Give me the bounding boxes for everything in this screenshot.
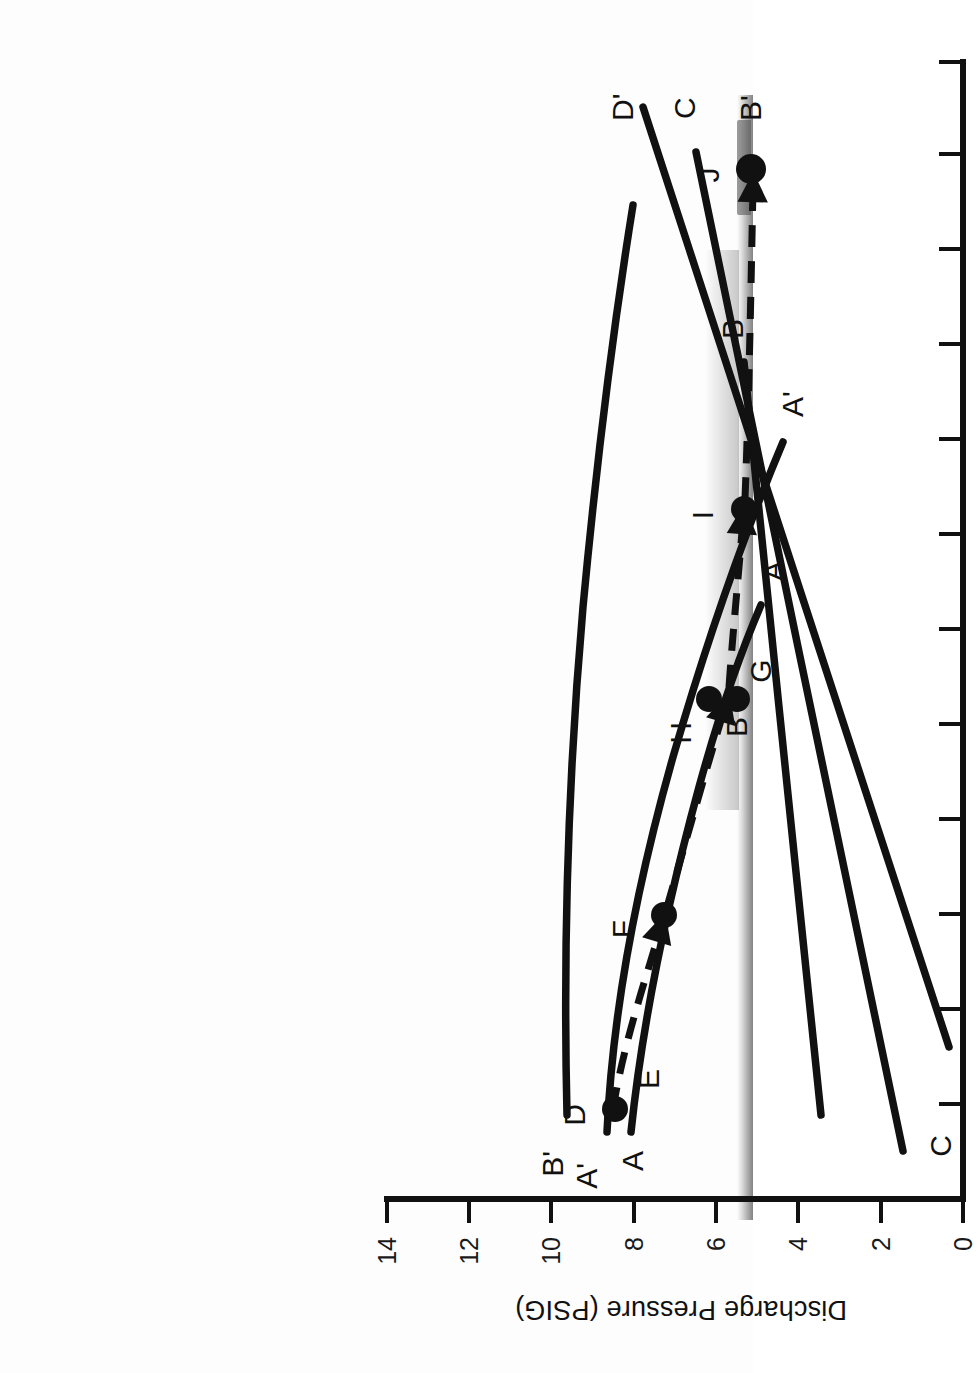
label-curve-B-prime-left: B' bbox=[536, 1151, 569, 1177]
label-point-I: I bbox=[686, 510, 719, 518]
y-tick-4: 4 bbox=[784, 1236, 812, 1250]
y-tick-6: 6 bbox=[702, 1237, 730, 1251]
curve-D-prime bbox=[643, 107, 949, 1047]
label-curve-A-prime-right: A' bbox=[776, 391, 809, 417]
label-point-F: F bbox=[606, 919, 639, 937]
marker-F bbox=[651, 902, 677, 928]
y-axis-tick-labels: 14 12 10 8 6 4 2 0 bbox=[373, 1236, 977, 1264]
label-point-B: B bbox=[720, 716, 753, 736]
y-tick-12: 12 bbox=[455, 1237, 483, 1265]
label-curve-B-prime-right: B' bbox=[734, 95, 767, 121]
y-tick-2: 2 bbox=[867, 1237, 895, 1251]
y-tick-14: 14 bbox=[373, 1236, 401, 1264]
marker-I bbox=[731, 496, 757, 522]
label-point-J: J bbox=[692, 167, 725, 182]
curve-B bbox=[744, 362, 821, 1115]
y-tick-8: 8 bbox=[620, 1237, 648, 1251]
y-axis-ticks bbox=[387, 1199, 963, 1223]
chart-rotated-canvas: 14 12 10 8 6 4 2 0 bbox=[351, 27, 977, 1347]
chart-area: 14 12 10 8 6 4 2 0 bbox=[34, 344, 977, 1030]
label-point-D: D bbox=[558, 1104, 591, 1126]
label-curve-B-right: B bbox=[716, 318, 749, 338]
label-curve-C-left: C bbox=[924, 1135, 957, 1157]
label-curve-C-right: C bbox=[668, 97, 701, 119]
label-curve-A-prime-left: A' bbox=[570, 1163, 603, 1189]
label-curve-D-prime: D' bbox=[606, 93, 639, 120]
y-tick-10: 10 bbox=[537, 1237, 565, 1265]
marker-J bbox=[736, 154, 766, 184]
y-tick-0: 0 bbox=[949, 1237, 977, 1251]
label-curve-A-left: A bbox=[616, 1151, 649, 1171]
label-point-G: G bbox=[744, 659, 777, 682]
label-point-E: E bbox=[632, 1068, 665, 1088]
label-point-H: H bbox=[664, 722, 697, 744]
chart-svg: 14 12 10 8 6 4 2 0 bbox=[351, 27, 977, 1347]
marker-H bbox=[696, 686, 722, 712]
x-axis-ticks bbox=[939, 62, 963, 1104]
y-axis-title: Discharge Pressure (PSIG) bbox=[514, 1295, 846, 1325]
label-curve-A-right: A bbox=[756, 560, 789, 580]
curve-C bbox=[696, 152, 903, 1151]
